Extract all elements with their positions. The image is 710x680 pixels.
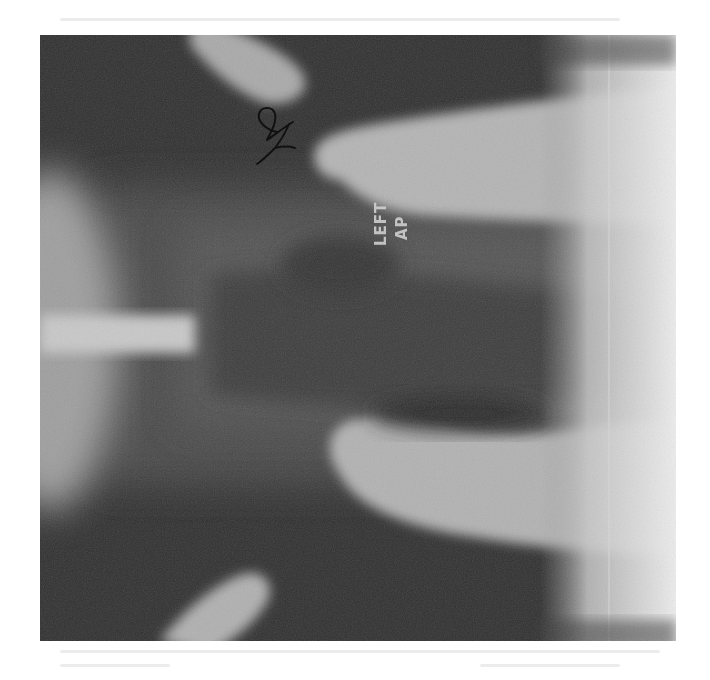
show-through-text-top (60, 18, 620, 21)
marker-side-label: LEFT (373, 202, 389, 246)
radiograph-image: LEFT AP (40, 35, 676, 641)
marker-view-label: AP (394, 215, 410, 240)
show-through-text-bottom-2 (60, 664, 170, 667)
radiograph-drawing (40, 35, 676, 641)
show-through-text-bottom-1 (60, 650, 660, 653)
handwritten-mark (237, 100, 307, 170)
show-through-text-bottom-3 (480, 664, 620, 667)
scanned-page: LEFT AP (0, 0, 710, 680)
